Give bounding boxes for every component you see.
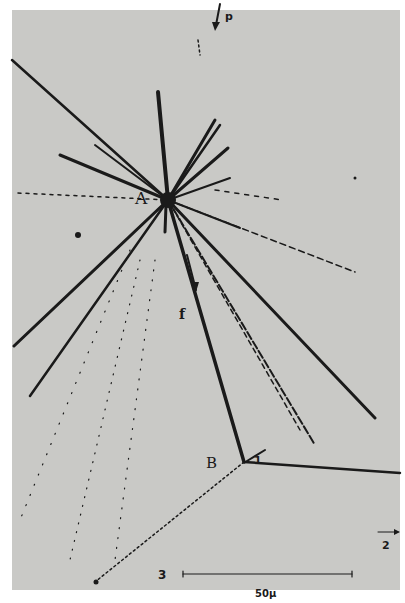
track-left-2 — [95, 145, 168, 200]
track-up — [158, 92, 168, 200]
star-A-center — [160, 192, 176, 208]
track-lower-right-2 — [168, 200, 300, 430]
particle-tracks — [0, 0, 405, 603]
image-frame: A B p f 1 2 3 50μ — [0, 0, 405, 603]
track-right-dotted — [215, 190, 282, 200]
track-lower-right-1 — [168, 200, 315, 445]
track-down-short — [165, 205, 166, 232]
label-B: B — [206, 454, 217, 472]
track-p-dots — [198, 40, 200, 55]
label-p: p — [225, 10, 233, 23]
label-3: 3 — [158, 568, 166, 582]
label-f: f — [179, 306, 185, 322]
dot-streak-2 — [115, 260, 155, 560]
arrow-p — [216, 4, 220, 25]
scale-bar-label: 50μ — [255, 588, 276, 599]
label-1: 1 — [254, 454, 262, 467]
track-2 — [244, 462, 400, 473]
arrow-2-head — [394, 529, 400, 535]
track-right-short — [168, 200, 240, 228]
arrow-p-head — [212, 22, 220, 31]
label-A: A — [135, 188, 147, 208]
track-3 — [95, 462, 244, 582]
dot-streak-1 — [70, 260, 140, 560]
track-left-1 — [60, 155, 168, 200]
track-lower-left-2 — [30, 200, 168, 396]
label-2: 2 — [382, 539, 390, 552]
track-lower-left-1 — [14, 200, 168, 346]
track-upper-left — [12, 60, 168, 200]
